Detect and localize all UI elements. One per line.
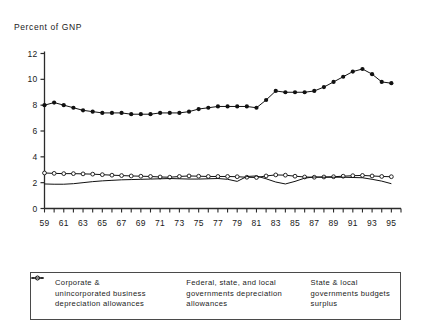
data-point <box>216 175 220 179</box>
x-axis-tick-label: 89 <box>329 218 339 228</box>
chart-legend: Corporate & unincorporated business depr… <box>30 272 401 320</box>
data-point <box>206 106 210 110</box>
x-axis-tick-label: 71 <box>155 218 165 228</box>
data-point <box>370 72 374 76</box>
x-axis-tick-label: 91 <box>348 218 358 228</box>
data-point <box>110 173 114 177</box>
data-point <box>177 175 181 179</box>
data-point <box>264 98 268 102</box>
data-point <box>149 175 153 179</box>
data-point <box>71 106 75 110</box>
legend-label-0: Corporate & unincorporated business depr… <box>55 278 146 310</box>
data-point <box>120 174 124 178</box>
data-point <box>235 175 239 179</box>
x-axis-tick-label: 77 <box>213 218 223 228</box>
data-point <box>187 110 191 114</box>
y-axis-tick-label: 2 <box>32 178 37 188</box>
x-axis-tick-label: 65 <box>97 218 107 228</box>
data-point <box>81 172 85 176</box>
data-point <box>42 103 46 107</box>
x-axis-tick-label: 83 <box>271 218 281 228</box>
data-point <box>62 172 66 176</box>
x-axis-tick-label: 75 <box>194 218 204 228</box>
x-axis-tick-label: 87 <box>309 218 319 228</box>
data-point <box>52 171 56 175</box>
data-point <box>91 172 95 176</box>
data-point <box>72 172 76 176</box>
data-point <box>283 173 287 177</box>
y-axis-tick-label: 4 <box>32 152 37 162</box>
x-axis-tick-label: 59 <box>39 218 49 228</box>
legend-label-1: Federal, state, and local governments de… <box>186 278 282 310</box>
data-point <box>293 174 297 178</box>
data-point <box>303 90 307 94</box>
x-axis-tick-label: 95 <box>386 218 396 228</box>
legend-item-0[interactable]: Corporate & unincorporated business depr… <box>38 278 169 319</box>
data-point <box>293 90 297 94</box>
y-axis-tick-label: 12 <box>27 49 37 59</box>
chart-series-0 <box>42 67 393 116</box>
legend-item-2[interactable]: State & local governments budgets surplu… <box>294 278 400 319</box>
x-axis-tick-label: 81 <box>251 218 261 228</box>
data-point <box>245 104 249 108</box>
x-axis-tick-label: 79 <box>232 218 242 228</box>
data-point <box>264 174 268 178</box>
legend-label-2: State & local governments budgets surplu… <box>311 278 391 310</box>
data-point <box>370 174 374 178</box>
data-point <box>158 111 162 115</box>
data-point <box>110 111 114 115</box>
data-point <box>380 80 384 84</box>
data-point <box>274 89 278 93</box>
y-axis-tick-label: 10 <box>27 74 37 84</box>
x-axis-tick-label: 85 <box>290 218 300 228</box>
data-point <box>81 108 85 112</box>
data-point <box>332 175 336 179</box>
data-point <box>360 67 364 71</box>
x-axis-tick-label: 73 <box>174 218 184 228</box>
data-point <box>380 175 384 179</box>
legend-marker-1 <box>169 279 182 289</box>
data-point <box>168 111 172 115</box>
data-point <box>62 103 66 107</box>
data-point <box>129 112 133 116</box>
data-point <box>216 104 220 108</box>
data-point <box>254 106 258 110</box>
x-axis-tick-label: 67 <box>117 218 127 228</box>
y-axis-tick-label: 8 <box>32 100 37 110</box>
data-point <box>119 111 123 115</box>
legend-item-1[interactable]: Federal, state, and local governments de… <box>169 278 293 319</box>
data-point <box>226 175 230 179</box>
data-point <box>197 174 201 178</box>
data-point <box>197 107 201 111</box>
data-point <box>177 111 181 115</box>
plain-line-icon <box>31 273 44 283</box>
data-point <box>361 174 365 178</box>
data-point <box>139 174 143 178</box>
data-point <box>312 89 316 93</box>
data-point <box>274 173 278 177</box>
data-point <box>129 174 133 178</box>
x-axis-tick-label: 93 <box>367 218 377 228</box>
data-point <box>235 104 239 108</box>
data-point <box>100 173 104 177</box>
data-point <box>283 90 287 94</box>
data-point <box>52 100 56 104</box>
data-point <box>225 104 229 108</box>
data-point <box>206 175 210 179</box>
data-point <box>43 171 47 175</box>
data-point <box>100 111 104 115</box>
data-point <box>91 110 95 114</box>
y-axis-tick-label: 6 <box>32 126 37 136</box>
data-point <box>389 175 393 179</box>
data-point <box>341 75 345 79</box>
data-point <box>148 112 152 116</box>
x-axis-tick-label: 69 <box>136 218 146 228</box>
legend-marker-2 <box>294 279 307 289</box>
data-point <box>139 112 143 116</box>
x-axis-tick-label: 61 <box>59 218 69 228</box>
y-axis-tick-label: 0 <box>32 204 37 214</box>
x-axis-tick-label: 63 <box>78 218 88 228</box>
data-point <box>187 174 191 178</box>
data-point <box>389 81 393 85</box>
data-point <box>351 69 355 73</box>
